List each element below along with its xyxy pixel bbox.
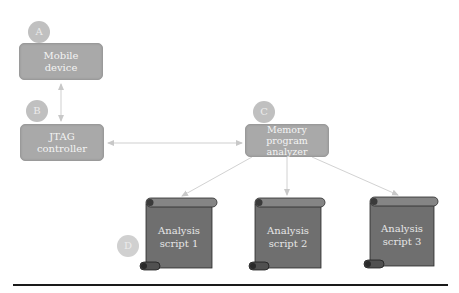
mobile-device-label-1: Mobile	[44, 50, 79, 62]
marker-b-label: B	[33, 105, 40, 116]
marker-a-label: A	[35, 26, 42, 37]
arrow-memory-script3	[312, 157, 398, 195]
jtag-controller-label-1: JTAG	[37, 131, 87, 143]
script-2-label-2: script 2	[255, 237, 321, 250]
memory-program-analyzer-node: Memory program analyzer	[245, 124, 329, 157]
mobile-device-node: Mobile device	[19, 43, 103, 80]
diagram-canvas: A Mobile device B JTAG controller C Memo…	[0, 0, 459, 293]
bottom-rule	[13, 284, 448, 286]
script-1-label-1: Analysis	[146, 224, 212, 237]
script-1-label-2: script 1	[146, 237, 212, 250]
arrow-memory-script1	[182, 157, 252, 196]
memory-analyzer-label-2: program analyzer	[246, 135, 328, 157]
script-3-label-1: Analysis	[370, 222, 434, 235]
marker-c: C	[253, 101, 275, 123]
script-2-label-1: Analysis	[255, 224, 321, 237]
memory-analyzer-label-1: Memory	[246, 124, 328, 135]
marker-d: D	[117, 235, 139, 257]
marker-b: B	[26, 100, 48, 122]
marker-a: A	[28, 21, 50, 43]
script-3-label-2: script 3	[370, 235, 434, 248]
jtag-controller-node: JTAG controller	[20, 124, 104, 161]
mobile-device-label-2: device	[44, 62, 79, 74]
marker-d-label: D	[124, 240, 132, 251]
marker-c-label: C	[260, 106, 268, 117]
jtag-controller-label-2: controller	[37, 143, 87, 155]
